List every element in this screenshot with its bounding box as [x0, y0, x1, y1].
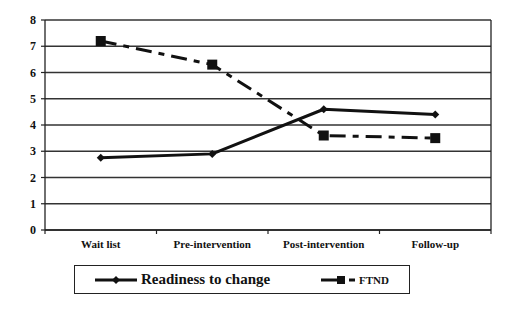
legend-label: FTND — [359, 274, 389, 286]
square-marker — [319, 131, 329, 141]
legend-item-ftnd: FTND — [321, 266, 389, 293]
y-tick-label: 7 — [30, 39, 36, 53]
legend: Readiness to change FTND — [74, 265, 410, 294]
y-tick-label: 2 — [30, 171, 36, 185]
diamond-marker — [431, 111, 439, 119]
y-tick-label: 1 — [30, 197, 36, 211]
y-axis-ticks: 012345678 — [30, 13, 45, 237]
x-category-label: Pre-intervention — [174, 238, 251, 250]
y-tick-label: 8 — [30, 13, 36, 27]
series-readiness-to-change — [97, 105, 440, 162]
x-category-label: Post-intervention — [283, 238, 364, 250]
square-marker — [96, 36, 106, 46]
x-category-label: Wait list — [81, 238, 121, 250]
y-tick-label: 6 — [30, 66, 36, 80]
diamond-marker — [97, 154, 105, 162]
y-tick-label: 4 — [30, 118, 36, 132]
diamond-line-icon — [95, 274, 137, 286]
square-dashed-line-icon — [321, 274, 355, 286]
legend-item-readiness: Readiness to change — [95, 266, 270, 293]
x-category-label: Follow-up — [411, 238, 459, 250]
y-tick-label: 3 — [30, 144, 36, 158]
y-tick-label: 5 — [30, 92, 36, 106]
series-ftnd — [96, 36, 441, 143]
gridlines — [45, 20, 491, 230]
x-axis-labels: Wait listPre-interventionPost-interventi… — [45, 230, 491, 250]
square-marker — [207, 60, 217, 70]
y-tick-label: 0 — [30, 223, 36, 237]
diamond-marker — [320, 105, 328, 113]
legend-label: Readiness to change — [141, 271, 270, 288]
square-marker — [430, 133, 440, 143]
